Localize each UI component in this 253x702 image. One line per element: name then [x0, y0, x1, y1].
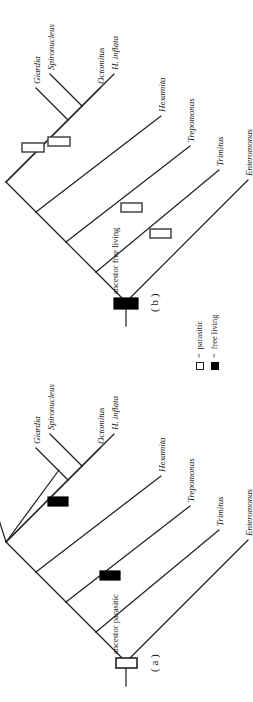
panel-a-ancestor-label: ancestor parasitic: [110, 594, 120, 654]
marker-free-living-1: [100, 571, 120, 580]
marker-free-living-2: [48, 497, 68, 506]
tip-label-hexamita: Hexamita: [157, 77, 167, 112]
tip-label-octomitus: Octomitus: [96, 408, 106, 444]
marker-root-a: [116, 658, 137, 668]
marker-parasitic-trimitus: [150, 229, 171, 238]
tip-label-spironucleus: Spironucleus: [46, 24, 56, 70]
tip-label-enteromonas: Enteromonas: [244, 129, 252, 176]
tip-label-trepomonas: Trepomonas: [186, 458, 196, 502]
legend-label-parasitic: parasitic: [196, 321, 204, 349]
legend-item-free-living: = free living: [211, 315, 219, 370]
panel-b-ancestor-label: ancestor free living: [110, 228, 120, 294]
open-square-icon: [196, 362, 204, 370]
tip-label-octomitus: Octomitus: [96, 48, 106, 84]
marker-parasitic-octomitus-clade: [22, 143, 44, 152]
marker-root-b: [114, 298, 138, 309]
tip-label-h-inflata: H. inflata: [110, 36, 120, 70]
tip-label-hexamita: Hexamita: [157, 437, 167, 472]
marker-parasitic-hinflata-clade: [48, 137, 70, 146]
legend-item-parasitic: = parasitic: [196, 321, 204, 370]
panel-a: ( a ) ancestor parasitic Enteromonas Tri…: [0, 367, 252, 702]
legend: = parasitic = free living: [196, 274, 240, 370]
tip-label-h-inflata: H. inflata: [110, 396, 120, 430]
tip-label-giardia: Giardia: [32, 416, 42, 444]
panel-b-letter: ( b ): [148, 294, 160, 312]
legend-label-free-living: free living: [211, 315, 219, 350]
tip-label-trepomonas: Trepomonas: [186, 98, 196, 142]
tip-label-trimitus: Trimitus: [215, 136, 225, 166]
filled-square-icon: [211, 362, 219, 370]
tip-label-enteromonas: Enteromonas: [244, 489, 252, 536]
tip-label-giardia: Giardia: [32, 56, 42, 84]
tip-label-spironucleus: Spironucleus: [46, 384, 56, 430]
tip-label-trimitus: Trimitus: [215, 496, 225, 526]
legend-equals-free-living: =: [211, 353, 219, 358]
panel-a-letter: ( a ): [148, 654, 160, 672]
legend-equals-parasitic: =: [196, 353, 204, 358]
figure-canvas: ( a ) ancestor parasitic Enteromonas Tri…: [0, 0, 252, 702]
marker-parasitic-trepomonas: [121, 203, 142, 212]
